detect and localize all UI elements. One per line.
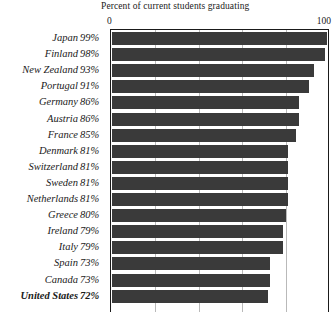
category-value: 85%: [80, 128, 104, 141]
category-label-row: Denmark81%: [0, 144, 104, 157]
category-name: Sweden: [46, 176, 78, 189]
category-value: 73%: [80, 256, 104, 269]
category-value: 81%: [80, 176, 104, 189]
category-label-row: Portugal91%: [0, 79, 104, 92]
category-name: Canada: [45, 273, 78, 286]
category-label-row: Austria86%: [0, 112, 104, 125]
category-label-row: Sweden81%: [0, 176, 104, 189]
category-name: France: [48, 128, 78, 141]
category-value: 81%: [80, 192, 104, 205]
category-name: Greece: [48, 208, 78, 221]
category-name: Spain: [54, 256, 78, 269]
category-value: 81%: [80, 160, 104, 173]
bar: [112, 80, 309, 93]
bar: [112, 257, 270, 270]
bar: [112, 274, 270, 287]
category-value: 73%: [80, 273, 104, 286]
category-label-row: Switzerland81%: [0, 160, 104, 173]
bar-series: [111, 30, 328, 312]
x-tick-label-max: 100: [317, 15, 331, 28]
category-labels: Japan99%Finland98%New Zealand93%Portugal…: [0, 29, 108, 312]
bar: [112, 161, 288, 174]
category-label-row: Japan99%: [0, 31, 104, 44]
chart-title: Percent of current students graduating: [101, 0, 336, 12]
bar: [112, 225, 283, 238]
category-value: 86%: [80, 112, 104, 125]
bar: [112, 290, 268, 303]
bar: [112, 241, 283, 254]
bar: [112, 193, 288, 206]
bar: [112, 64, 314, 77]
category-label-row: United States72%: [0, 289, 104, 302]
category-name: Ireland: [47, 224, 78, 237]
category-value: 86%: [80, 95, 104, 108]
bar: [112, 32, 327, 45]
category-name: Finland: [45, 47, 78, 60]
bar: [112, 129, 296, 142]
category-label-row: New Zealand93%: [0, 63, 104, 76]
x-tick-label-min: 0: [107, 15, 112, 28]
category-name: Germany: [39, 95, 78, 108]
bar: [112, 113, 299, 126]
category-name: Italy: [59, 240, 78, 253]
category-label-row: Netherlands81%: [0, 192, 104, 205]
category-label-row: France85%: [0, 128, 104, 141]
bar: [112, 209, 286, 222]
category-label-row: Ireland79%: [0, 224, 104, 237]
category-value: 79%: [80, 224, 104, 237]
bar: [112, 96, 299, 109]
category-name: Switzerland: [28, 160, 78, 173]
x-axis-tick-labels: 0 100: [110, 15, 330, 28]
bar: [112, 145, 288, 158]
category-label-row: Finland98%: [0, 47, 104, 60]
category-name: Netherlands: [27, 192, 78, 205]
bar: [112, 48, 325, 61]
category-name: United States: [21, 289, 78, 302]
category-name: New Zealand: [22, 63, 78, 76]
category-label-row: Canada73%: [0, 273, 104, 286]
category-name: Portugal: [41, 79, 78, 92]
category-value: 81%: [80, 144, 104, 157]
category-value: 80%: [80, 208, 104, 221]
category-value: 93%: [80, 63, 104, 76]
category-label-row: Greece80%: [0, 208, 104, 221]
category-label-row: Germany86%: [0, 95, 104, 108]
category-name: Japan: [52, 31, 78, 44]
plot-area: [110, 29, 329, 312]
category-value: 79%: [80, 240, 104, 253]
bar: [112, 177, 288, 190]
category-label-row: Italy79%: [0, 240, 104, 253]
category-value: 99%: [80, 31, 104, 44]
category-value: 98%: [80, 47, 104, 60]
category-value: 91%: [80, 79, 104, 92]
category-name: Denmark: [39, 144, 78, 157]
category-label-row: Spain73%: [0, 256, 104, 269]
bar-chart-figure: Percent of current students graduating 0…: [0, 0, 336, 312]
category-value: 72%: [80, 289, 104, 302]
category-name: Austria: [47, 112, 78, 125]
